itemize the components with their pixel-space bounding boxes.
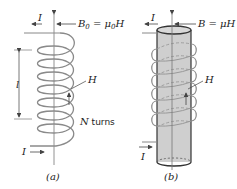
core-top-ellipse — [157, 26, 191, 34]
coil-a — [30, 33, 74, 146]
field-label-b0: B0 = μ0H — [77, 18, 125, 31]
current-label-bottom-a: I — [21, 146, 27, 157]
h-label-b: H — [204, 74, 214, 85]
caption-a: (a) — [46, 171, 60, 182]
caption-b: (b) — [164, 171, 178, 182]
figure-a-air-core-solenoid: l I B0 = μ0H H N turns I (a) — [14, 12, 125, 182]
turns-label: N turns — [79, 116, 115, 127]
field-label-b: B = μH — [197, 18, 236, 29]
h-label-a: H — [87, 74, 97, 85]
current-label-top-a: I — [37, 12, 43, 23]
current-label-bottom-b: I — [140, 151, 146, 162]
length-label: l — [16, 79, 19, 90]
figure-b-iron-core-solenoid: I B = μH H I (b) — [139, 12, 236, 182]
current-label-top-b: I — [150, 12, 156, 23]
